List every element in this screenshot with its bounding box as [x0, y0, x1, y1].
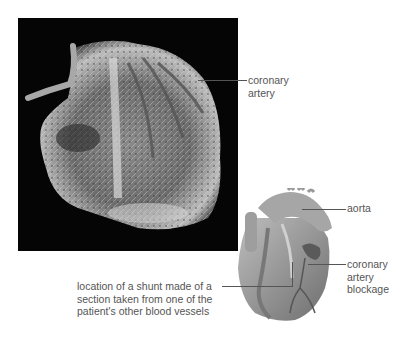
coronary-artery-label: coronary artery [248, 74, 289, 99]
coronary-vessel-cast-photo [18, 18, 238, 251]
shunt-leader-line [222, 286, 292, 287]
shunt-label: location of a shunt made of a section ta… [77, 280, 212, 318]
blockage-label: coronary artery blockage [347, 258, 389, 296]
shunt-leader-vertical [292, 262, 293, 287]
blockage-leader-line [308, 264, 346, 265]
aorta-leader-line [302, 209, 346, 210]
heart-cast-image [18, 18, 238, 251]
coronary-artery-leader-line [198, 80, 247, 81]
aorta-label: aorta [347, 202, 371, 215]
